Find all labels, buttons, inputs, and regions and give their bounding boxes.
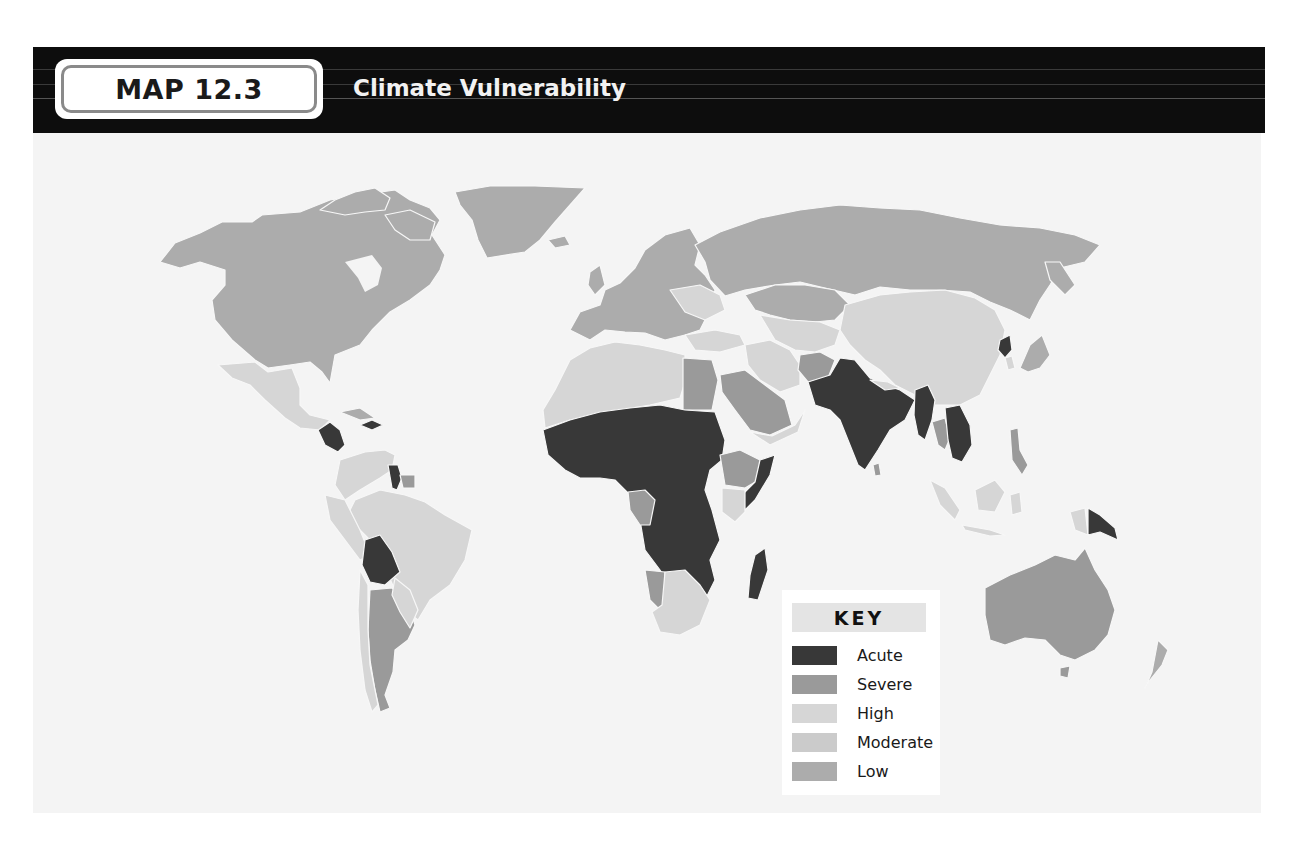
key-label: High (857, 704, 894, 723)
key-item-moderate: Moderate (792, 732, 933, 752)
key-label: Low (857, 762, 889, 781)
region-uk (588, 265, 605, 295)
region-mexico (218, 362, 330, 430)
key-item-low: Low (792, 761, 889, 781)
region-south-korea (1005, 356, 1015, 370)
region-papua-new-guinea (1088, 508, 1118, 540)
region-philippines (1010, 428, 1028, 475)
region-tasmania (1060, 666, 1070, 678)
region-borneo (975, 480, 1005, 512)
region-guyana (388, 465, 402, 490)
region-japan (1020, 335, 1050, 372)
key-title: KEY (792, 603, 926, 632)
region-sri-lanka (873, 463, 881, 476)
key-label: Moderate (857, 733, 933, 752)
region-suriname (400, 475, 415, 488)
key-item-severe: Severe (792, 674, 912, 694)
region-kenya (722, 488, 745, 522)
region-cuba (340, 408, 375, 420)
high-swatch-icon (792, 704, 837, 723)
region-madagascar (748, 548, 768, 600)
region-west-papua (1070, 508, 1088, 535)
world-map (0, 0, 1294, 864)
key-label: Severe (857, 675, 912, 694)
acute-swatch-icon (792, 646, 837, 665)
region-egypt (683, 358, 718, 410)
severe-swatch-icon (792, 675, 837, 694)
region-iceland (548, 236, 570, 248)
region-java (962, 525, 1005, 536)
region-myanmar (914, 385, 935, 440)
region-indochina (945, 405, 972, 462)
key-item-high: High (792, 703, 894, 723)
region-australia (985, 548, 1115, 660)
region-kamchatka (1045, 262, 1075, 295)
region-greenland (455, 186, 585, 258)
map-key: KEY Acute Severe High Moderate Low (782, 590, 940, 795)
low-swatch-icon (792, 762, 837, 781)
moderate-swatch-icon (792, 733, 837, 752)
region-gabon-congo (628, 490, 655, 525)
region-sumatra (930, 480, 960, 520)
region-sulawesi (1010, 492, 1022, 515)
region-new-zealand (1145, 640, 1168, 688)
key-item-acute: Acute (792, 645, 903, 665)
region-haiti (360, 420, 383, 430)
region-turkey (685, 330, 745, 352)
key-label: Acute (857, 646, 903, 665)
